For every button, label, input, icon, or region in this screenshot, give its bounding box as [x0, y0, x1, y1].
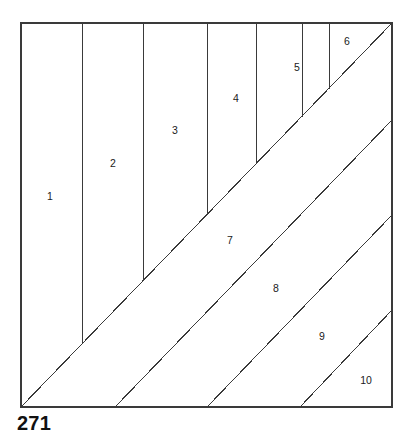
piece-label-6: 6 — [344, 35, 350, 47]
piece-label-3: 3 — [172, 124, 178, 136]
piece-label-7: 7 — [227, 234, 233, 246]
dissection-diagram: 12345678910 — [0, 0, 412, 437]
piece-label-10: 10 — [360, 374, 372, 386]
piece-label-8: 8 — [273, 282, 279, 294]
piece-label-4: 4 — [233, 92, 239, 104]
piece-label-5: 5 — [294, 61, 300, 73]
figure-container: 12345678910 271 — [0, 0, 412, 437]
piece-label-2: 2 — [110, 157, 116, 169]
piece-label-1: 1 — [47, 190, 53, 202]
figure-caption: 271 — [17, 411, 51, 435]
piece-label-9: 9 — [319, 330, 325, 342]
